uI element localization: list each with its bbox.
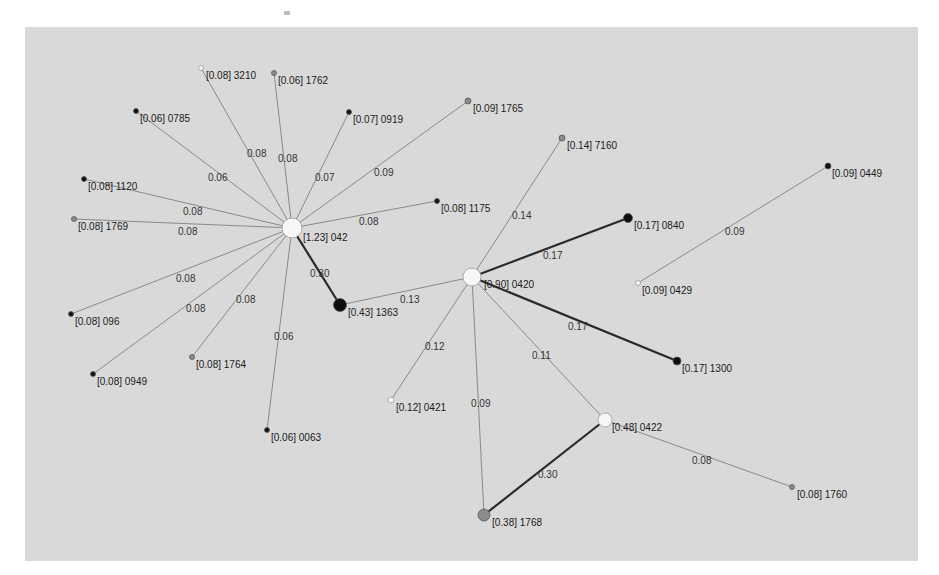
- node-096: [69, 312, 74, 317]
- node-label: [0.09] 0449: [832, 168, 882, 179]
- node-0949: [91, 372, 96, 377]
- edge-weight-label: 0.08: [359, 216, 379, 227]
- edge-weight-label: 0.14: [512, 210, 532, 221]
- node-label: [0.90] 0420: [484, 279, 534, 290]
- node-0420: [463, 268, 481, 286]
- edge-weight-label: 0.30: [538, 469, 558, 480]
- node-0840: [624, 214, 633, 223]
- edge-weight-label: 0.09: [374, 167, 394, 178]
- node-label: [0.07] 0919: [353, 114, 403, 125]
- edge-0420-0422: [472, 277, 605, 420]
- edge-0420-0840: [472, 218, 628, 277]
- node-1769: [72, 217, 77, 222]
- edge-weight-label: 0.11: [532, 350, 551, 361]
- figure-panel: 0.080.080.060.070.090.080.080.080.080.08…: [25, 27, 918, 561]
- node-label: [0.48] 0422: [612, 422, 662, 433]
- edge-weight-label: 0.17: [568, 321, 588, 332]
- edge-042-0785: [136, 111, 292, 228]
- node-1300: [673, 357, 681, 365]
- node-0063: [265, 428, 270, 433]
- node-label: [0.08] 1760: [797, 489, 847, 500]
- node-label: [0.17] 1300: [682, 363, 732, 374]
- node-1768: [478, 509, 490, 521]
- node-label: [0.06] 1762: [278, 75, 328, 86]
- edges-layer: [71, 68, 828, 515]
- node-0785: [134, 109, 139, 114]
- edge-weight-label: 0.17: [543, 250, 563, 261]
- node-label: [0.38] 1768: [492, 517, 542, 528]
- node-1363: [334, 299, 347, 312]
- edge-042-0919: [292, 112, 349, 228]
- node-1765: [465, 98, 471, 104]
- edge-042-0063: [267, 228, 292, 430]
- node-label: [0.06] 0785: [140, 113, 190, 124]
- edge-042-1762: [274, 73, 292, 228]
- edge-weight-label: 0.07: [315, 172, 335, 183]
- node-1762: [272, 71, 277, 76]
- node-label: [0.08] 1769: [78, 221, 128, 232]
- node-1764: [190, 355, 195, 360]
- node-7160: [559, 135, 565, 141]
- scan-speck: [284, 11, 290, 15]
- edge-weight-label: 0.08: [247, 148, 267, 159]
- edge-weight-label: 0.30: [310, 268, 330, 279]
- nodes-layer: [69, 66, 832, 522]
- node-0422: [598, 413, 612, 427]
- edge-weight-label: 0.08: [186, 303, 206, 314]
- node-label: [0.09] 0429: [642, 285, 692, 296]
- edge-weight-label: 0.09: [471, 398, 491, 409]
- node-label: [0.12] 0421: [396, 402, 446, 413]
- network-graph: 0.080.080.060.070.090.080.080.080.080.08…: [0, 0, 939, 575]
- node-label: [0.06] 0063: [271, 432, 321, 443]
- edge-0422-1768: [484, 420, 605, 515]
- edge-weight-label: 0.08: [178, 226, 198, 237]
- node-label: [0.17] 0840: [634, 220, 684, 231]
- node-1760: [790, 485, 795, 490]
- edge-weight-label: 0.12: [425, 341, 445, 352]
- node-label: [0.08] 0949: [97, 376, 147, 387]
- node-label: [0.08] 1764: [196, 359, 246, 370]
- edge-0420-1768: [472, 277, 484, 515]
- node-1175: [435, 199, 440, 204]
- edge-weight-label: 0.08: [183, 206, 203, 217]
- node-0449: [825, 163, 831, 169]
- node-0919: [347, 110, 352, 115]
- node-label: [0.08] 1175: [441, 203, 491, 214]
- edge-weight-label: 0.08: [176, 273, 196, 284]
- node-3210: [199, 66, 204, 71]
- edge-042-0949: [93, 228, 292, 374]
- node-label: [0.09] 1765: [473, 103, 523, 114]
- node-0429: [636, 281, 641, 286]
- node-label: [0.08] 096: [75, 316, 120, 327]
- node-1120: [82, 177, 87, 182]
- node-label: [0.14] 7160: [567, 140, 617, 151]
- node-0421: [388, 397, 394, 403]
- node-label: [1.23] 042: [303, 232, 348, 243]
- node-label: [0.08] 1120: [88, 181, 138, 192]
- node-label: [0.43] 1363: [348, 307, 398, 318]
- edge-weight-label: 0.06: [208, 172, 228, 183]
- edge-weight-label: 0.06: [274, 331, 294, 342]
- node-label: [0.08] 3210: [206, 70, 256, 81]
- node-042: [282, 218, 302, 238]
- edge-weight-label: 0.08: [278, 153, 298, 164]
- edge-weight-label: 0.09: [725, 226, 745, 237]
- edge-weight-label: 0.13: [400, 294, 420, 305]
- node-labels-layer: [1.23] 042[0.08] 3210[0.06] 1762[0.06] 0…: [75, 70, 882, 528]
- edge-weight-label: 0.08: [236, 294, 256, 305]
- edge-weight-label: 0.08: [692, 455, 712, 466]
